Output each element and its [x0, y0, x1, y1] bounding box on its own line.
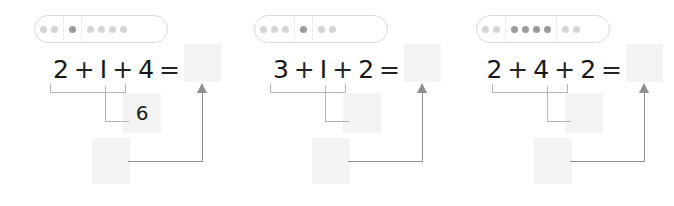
dot-strip-3 [476, 15, 610, 43]
equation-term-1: 2 [486, 57, 502, 82]
dot-strip-2 [254, 15, 388, 43]
dot-strip-section-3 [312, 16, 341, 42]
arrow-horizontal-segment-2 [348, 161, 423, 162]
dot [98, 26, 105, 33]
dot [318, 26, 325, 33]
equation-operator-1: + [507, 57, 528, 82]
dot [271, 26, 278, 33]
dot [493, 26, 500, 33]
grouping-bracket-2 [270, 84, 346, 93]
lower-box-2[interactable] [312, 138, 350, 184]
equation-operator-1: + [294, 57, 315, 82]
arrow-vertical-segment-2 [422, 92, 423, 162]
arrow-head-icon-3 [639, 83, 649, 93]
dot [573, 26, 580, 33]
dot-strip-1 [34, 15, 168, 43]
bracket-stem-2 [325, 86, 326, 122]
arrow-horizontal-segment-1 [128, 161, 203, 162]
arrow-vertical-segment-1 [202, 92, 203, 162]
dot-strip-section-2 [63, 16, 81, 42]
dot [40, 26, 47, 33]
answer-box-2[interactable] [404, 44, 441, 82]
dot-highlighted [544, 26, 551, 33]
bracket-elbow-1 [105, 121, 129, 122]
bracket-stem-1 [105, 86, 106, 122]
dot-highlighted [533, 26, 540, 33]
equation-2: 3 + I + 2 = [240, 52, 400, 86]
dot-strip-section-2 [294, 16, 312, 42]
lower-box-1[interactable] [92, 138, 130, 184]
equation-operator-2: + [332, 57, 353, 82]
arrow-horizontal-segment-3 [570, 161, 645, 162]
bracket-elbow-2 [325, 121, 349, 122]
equation-term-2: I [320, 57, 327, 82]
problem-group-2: 3 + I + 2 = [228, 0, 448, 206]
dot [51, 26, 58, 33]
intermediate-box-1[interactable]: 6 [123, 93, 161, 133]
dot-highlighted [511, 26, 518, 33]
equation-term-1: 2 [53, 57, 69, 82]
arrow-vertical-segment-3 [644, 92, 645, 162]
equation-term-2: I [100, 57, 107, 82]
equals-sign: = [601, 57, 622, 82]
dot [282, 26, 289, 33]
bracket-stem-3 [547, 86, 548, 122]
equation-term-3: 4 [138, 57, 154, 82]
equation-3: 2 + 4 + 2 = [462, 52, 622, 86]
equation-term-2: 4 [533, 57, 549, 82]
dot-highlighted [69, 26, 76, 33]
dot [562, 26, 569, 33]
equation-term-3: 2 [580, 57, 596, 82]
equals-sign: = [379, 57, 400, 82]
equation-term-1: 3 [273, 57, 289, 82]
dot [120, 26, 127, 33]
dot-strip-section-2 [505, 16, 556, 42]
dot-strip-section-1 [477, 16, 505, 42]
equation-1: 2 + I + 4 = [20, 52, 180, 86]
arrow-head-icon-1 [197, 83, 207, 93]
dot [109, 26, 116, 33]
dot [482, 26, 489, 33]
dot-strip-section-1 [35, 16, 63, 42]
equation-operator-2: + [554, 57, 575, 82]
equation-operator-2: + [112, 57, 133, 82]
equation-term-3: 2 [358, 57, 374, 82]
dot-strip-section-3 [81, 16, 132, 42]
equals-sign: = [159, 57, 180, 82]
lower-box-3[interactable] [534, 138, 572, 184]
dot-strip-section-1 [255, 16, 294, 42]
answer-box-3[interactable] [626, 44, 663, 82]
dot [260, 26, 267, 33]
dot-highlighted [522, 26, 529, 33]
dot [87, 26, 94, 33]
dot-strip-section-3 [556, 16, 585, 42]
arrow-head-icon-2 [417, 83, 427, 93]
grouping-bracket-1 [50, 84, 126, 93]
intermediate-box-3[interactable] [565, 93, 603, 133]
dot-highlighted [300, 26, 307, 33]
problem-group-1: 2 + I + 4 = 6 [8, 0, 228, 206]
intermediate-box-2[interactable] [343, 93, 381, 133]
dot [329, 26, 336, 33]
equation-operator-1: + [74, 57, 95, 82]
worksheet-canvas: 2 + I + 4 = 6 [0, 0, 674, 206]
bracket-elbow-3 [547, 121, 571, 122]
grouping-bracket-3 [492, 84, 568, 93]
answer-box-1[interactable] [184, 44, 221, 82]
problem-group-3: 2 + 4 + 2 = [450, 0, 670, 206]
